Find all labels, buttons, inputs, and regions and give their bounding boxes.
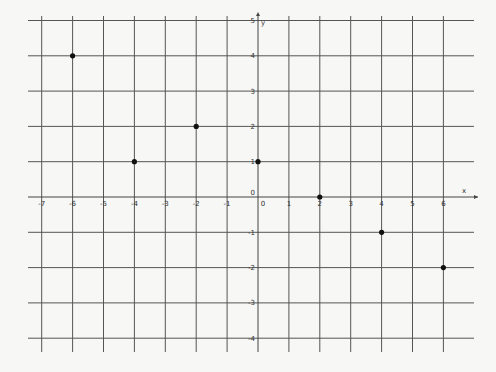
x-tick-label: 5: [410, 200, 414, 208]
data-point: [255, 159, 260, 164]
y-tick-label: -2: [248, 264, 255, 272]
x-tick-label: -1: [224, 200, 231, 208]
data-point: [132, 159, 137, 164]
y-tick-label: 1: [251, 158, 255, 166]
x-tick-label: 4: [379, 200, 384, 208]
data-point: [379, 230, 384, 235]
x-tick-label: -4: [131, 200, 139, 208]
y-tick-label: 3: [251, 88, 255, 96]
tick-labels: -7-6-5-4-3-2-1123456-4-3-2-112345xy00: [38, 17, 466, 343]
x-tick-label: -6: [69, 200, 77, 208]
x-axis-label: x: [462, 187, 466, 195]
y-tick-label: -4: [248, 335, 256, 343]
x-tick-label: -2: [193, 200, 200, 208]
y-tick-label: -1: [248, 229, 255, 237]
x-tick-label: 1: [287, 200, 291, 208]
coordinate-plane: -7-6-5-4-3-2-1123456-4-3-2-112345xy00: [0, 0, 496, 372]
x-tick-label: 3: [348, 200, 352, 208]
y-tick-label: 5: [251, 17, 255, 25]
y-axis-arrow-icon: [256, 12, 260, 16]
y-tick-label: 4: [251, 52, 256, 60]
data-point: [317, 194, 322, 199]
x-tick-label: -5: [100, 200, 107, 208]
x-tick-label-zero: 0: [261, 200, 265, 208]
y-tick-label: 2: [251, 123, 255, 131]
y-tick-label: -3: [248, 299, 255, 307]
y-axis-label: y: [261, 19, 265, 27]
x-tick-label: 6: [441, 200, 446, 208]
origin-label: 0: [251, 189, 255, 197]
x-axis-arrow-icon: [474, 195, 478, 199]
data-point: [441, 265, 446, 270]
x-tick-label: -7: [38, 200, 45, 208]
data-point: [194, 124, 199, 129]
x-tick-label: 2: [318, 200, 322, 208]
x-tick-label: -3: [162, 200, 169, 208]
data-point: [70, 53, 75, 58]
